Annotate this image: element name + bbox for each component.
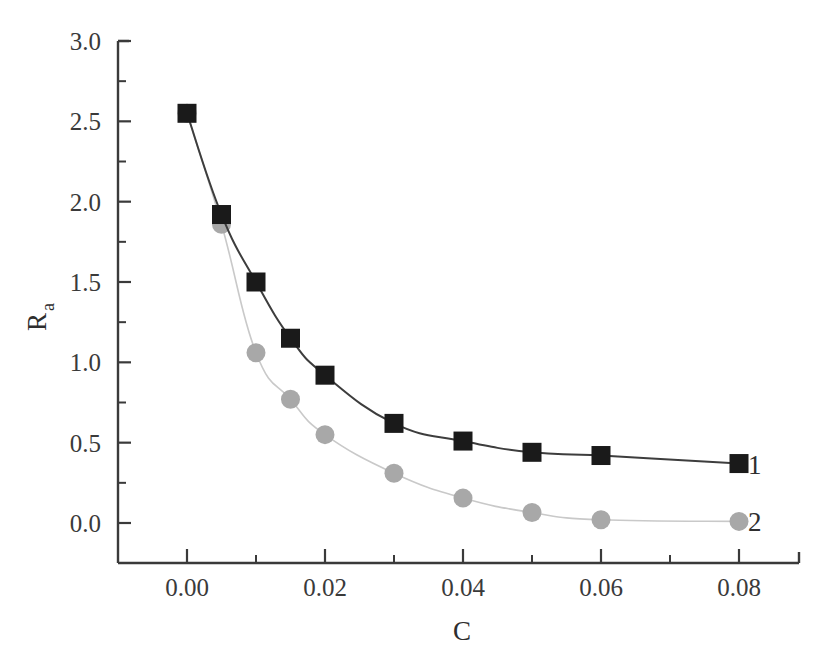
x-tick-label: 0.06 bbox=[579, 574, 623, 601]
series-line bbox=[187, 113, 739, 463]
data-point-marker bbox=[523, 503, 542, 522]
y-tick-label: 2.0 bbox=[70, 189, 101, 216]
data-series: 21 bbox=[178, 104, 762, 538]
chart-figure: 0.00.51.01.52.02.53.00.000.020.040.060.0… bbox=[0, 0, 828, 672]
y-tick-label: 3.0 bbox=[70, 28, 101, 55]
data-point-marker bbox=[247, 273, 266, 292]
y-axis-title-text: R bbox=[22, 313, 52, 331]
axis-tick-labels: 0.00.51.01.52.02.53.00.000.020.040.060.0… bbox=[70, 28, 761, 601]
data-point-marker bbox=[385, 464, 404, 483]
y-axis-title: Ra bbox=[22, 303, 58, 331]
data-point-marker bbox=[316, 425, 335, 444]
y-axis-title-subscript: a bbox=[38, 303, 58, 311]
series-label-1: 1 bbox=[748, 450, 762, 480]
data-point-marker bbox=[385, 414, 404, 433]
data-point-marker bbox=[454, 489, 473, 508]
series-2: 2 bbox=[178, 104, 762, 538]
series-label-2: 2 bbox=[748, 507, 762, 537]
data-point-marker bbox=[316, 366, 335, 385]
y-tick-label: 0.5 bbox=[70, 430, 101, 457]
data-point-marker bbox=[730, 512, 749, 531]
data-point-marker bbox=[730, 454, 749, 473]
y-tick-label: 2.5 bbox=[70, 108, 101, 135]
chart-canvas: 0.00.51.01.52.02.53.00.000.020.040.060.0… bbox=[0, 0, 828, 672]
series-1: 1 bbox=[178, 104, 762, 480]
axis-ticks bbox=[118, 41, 739, 563]
data-point-marker bbox=[523, 443, 542, 462]
y-tick-label: 0.0 bbox=[70, 510, 101, 537]
data-point-marker bbox=[592, 510, 611, 529]
x-tick-label: 0.04 bbox=[441, 574, 485, 601]
x-tick-label: 0.08 bbox=[717, 574, 761, 601]
series-line bbox=[187, 113, 739, 521]
y-tick-label: 1.5 bbox=[70, 269, 101, 296]
x-tick-label: 0.02 bbox=[303, 574, 347, 601]
x-tick-label: 0.00 bbox=[165, 574, 209, 601]
x-axis-title: C bbox=[453, 616, 471, 646]
data-point-marker bbox=[281, 329, 300, 348]
data-point-marker bbox=[281, 390, 300, 409]
data-point-marker bbox=[592, 446, 611, 465]
axes bbox=[118, 41, 799, 563]
data-point-marker bbox=[212, 205, 231, 224]
data-point-marker bbox=[178, 104, 197, 123]
y-tick-label: 1.0 bbox=[70, 349, 101, 376]
data-point-marker bbox=[454, 432, 473, 451]
data-point-marker bbox=[247, 343, 266, 362]
